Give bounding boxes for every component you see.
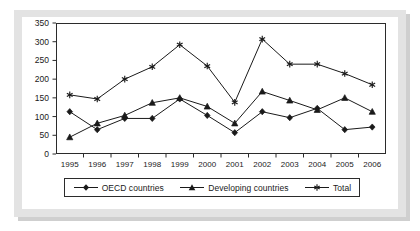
series-oecd-countries	[67, 96, 375, 136]
x-tick-label: 2002	[253, 160, 271, 169]
legend-label-oecd: OECD countries	[102, 183, 164, 193]
x-tick-label: 2003	[281, 160, 299, 169]
figure-page: 050100150200250300350 199519961997199819…	[0, 0, 420, 231]
data-point	[177, 41, 183, 48]
data-point	[204, 112, 210, 118]
data-point	[259, 88, 265, 94]
x-tick-label: 1995	[61, 160, 79, 169]
series-line	[70, 39, 373, 102]
x-tick-label: 2004	[308, 160, 326, 169]
series-developing-countries	[67, 88, 376, 139]
y-tick-label: 50	[40, 130, 50, 140]
y-tick-label: 100	[35, 112, 49, 122]
x-tick-label: 1997	[116, 160, 134, 169]
series-total	[67, 36, 375, 106]
y-tick-label: 0	[44, 149, 49, 159]
data-point	[122, 76, 128, 83]
x-tick-label: 2005	[336, 160, 354, 169]
x-tick-label: 1999	[171, 160, 189, 169]
data-point	[67, 109, 73, 115]
chart-legend: OECD countries Developing countries	[64, 178, 360, 197]
data-point	[232, 130, 238, 136]
legend-label-total: Total	[333, 183, 351, 193]
y-axis-tick-labels: 050100150200250300350	[35, 18, 49, 159]
series-line	[70, 99, 373, 133]
data-point	[259, 109, 265, 115]
legend-item-total: Total	[304, 182, 351, 193]
x-tick-label: 2000	[198, 160, 216, 169]
data-point	[369, 109, 375, 115]
y-axis-tick-marks	[53, 23, 57, 154]
legend-item-developing: Developing countries	[179, 182, 288, 193]
x-tick-label: 1998	[143, 160, 161, 169]
x-tick-label: 2006	[363, 160, 381, 169]
diamond-marker-icon	[73, 182, 99, 193]
chart-container: 050100150200250300350 199519961997199819…	[22, 17, 398, 209]
data-point	[369, 81, 375, 88]
legend-item-oecd: OECD countries	[73, 182, 164, 193]
data-point	[342, 95, 348, 101]
data-point	[342, 70, 348, 77]
y-tick-label: 300	[35, 37, 49, 47]
x-tick-label: 1996	[88, 160, 106, 169]
series-line	[70, 91, 373, 137]
data-point	[149, 115, 155, 121]
x-axis-tick-marks	[84, 154, 359, 158]
data-point	[122, 112, 128, 118]
data-series-layer	[67, 36, 376, 140]
triangle-marker-icon	[179, 182, 205, 193]
legend-label-developing: Developing countries	[208, 183, 288, 193]
y-tick-label: 200	[35, 74, 49, 84]
data-point	[177, 95, 183, 101]
data-point	[287, 115, 293, 121]
x-axis-tick-labels: 1995199619971998199920002001200220032004…	[61, 160, 382, 169]
data-point	[94, 127, 100, 133]
star-marker-icon	[304, 182, 330, 193]
y-tick-label: 350	[35, 18, 49, 28]
data-point	[342, 127, 348, 133]
data-point	[369, 124, 375, 130]
y-tick-label: 150	[35, 93, 49, 103]
x-tick-label: 2001	[226, 160, 244, 169]
data-point	[67, 134, 73, 140]
y-tick-label: 250	[35, 55, 49, 65]
data-point	[149, 63, 155, 70]
